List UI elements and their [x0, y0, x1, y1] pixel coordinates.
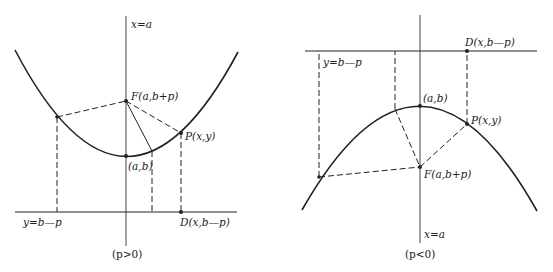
- left-dash-left-to-focus: [57, 101, 126, 117]
- right-D-dot: [465, 49, 469, 53]
- left-vertex-dot: [124, 154, 128, 158]
- right-diagram: [302, 15, 537, 243]
- right-vertex-dot: [418, 104, 422, 108]
- right-dash-mid-to-focus: [395, 109, 420, 167]
- right-point-label: P(x,y): [471, 115, 501, 126]
- right-directrix-point-label: D(x,b—p): [465, 37, 515, 48]
- left-P-dot: [179, 131, 183, 135]
- left-focus-to-mid: [126, 101, 152, 151]
- left-axis-label: x=a: [131, 19, 152, 30]
- right-caption: (p<0): [405, 249, 435, 260]
- right-P-dot: [465, 122, 469, 126]
- right-directrix-label: y=b—p: [323, 57, 362, 68]
- left-directrix-label: y=b—p: [23, 217, 62, 228]
- left-caption: (p>0): [112, 249, 142, 260]
- left-point-dot: [55, 115, 59, 119]
- left-point-label: P(x,y): [185, 131, 215, 142]
- left-focus-label: F(a,b+p): [131, 91, 178, 102]
- right-point-dot: [317, 175, 321, 179]
- left-directrix-point-label: D(x,b—p): [180, 217, 230, 228]
- left-D-dot: [179, 210, 183, 214]
- left-vertex-label: (a,b): [128, 161, 153, 172]
- right-dash-focus-to-P: [420, 124, 467, 167]
- right-focus-dot: [418, 165, 422, 169]
- left-focus-dot: [124, 99, 128, 103]
- right-dash-left-to-focus: [319, 167, 420, 177]
- right-axis-label: x=a: [424, 229, 445, 240]
- right-vertex-label: (a,b): [423, 93, 448, 104]
- right-focus-label: F(a,b+p): [424, 169, 471, 180]
